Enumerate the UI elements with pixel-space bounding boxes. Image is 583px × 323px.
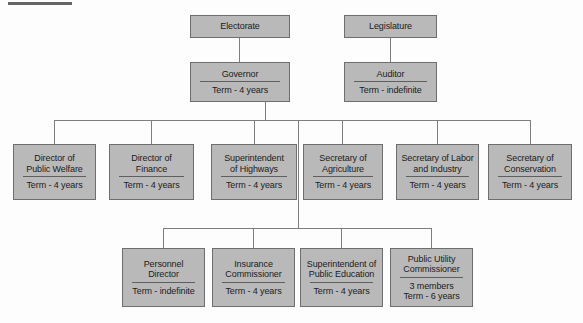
node-finance-divider (119, 176, 184, 177)
org-chart-canvas: Electorate Governor Term - 4 years Legis… (0, 0, 583, 323)
node-public-welfare-term: Term - 4 years (16, 180, 93, 191)
node-governor-term: Term - 4 years (193, 85, 287, 96)
connector-bus-departments (54, 120, 530, 121)
node-public-utility-commissioner-title: Public Utility Commissioner (393, 254, 470, 275)
node-legislature-title: Legislature (347, 21, 434, 32)
node-highways-divider (221, 176, 287, 177)
node-public-education-divider (310, 282, 373, 283)
connector-drop-public-education (341, 228, 342, 248)
node-public-education-term: Term - 4 years (303, 286, 380, 297)
connector-bus-agencies (163, 228, 432, 229)
node-highways-title: Superintendent of Highways (214, 153, 294, 174)
node-agriculture-title: Secretary of Agriculture (306, 153, 380, 174)
connector-drop-labor-industry (437, 120, 438, 144)
node-personnel-director-title: Personnel Director (125, 259, 202, 280)
node-electorate-title: Electorate (193, 21, 287, 32)
node-public-welfare-title: Director of Public Welfare (16, 153, 93, 174)
connector-governor-dropline (265, 102, 266, 120)
node-finance-term: Term - 4 years (112, 180, 191, 191)
node-personnel-director: Personnel Director Term - indefinite (122, 248, 205, 307)
node-conservation-term: Term - 4 years (491, 180, 569, 191)
node-governor: Governor Term - 4 years (190, 62, 290, 102)
node-highways: Superintendent of Highways Term - 4 year… (211, 144, 297, 200)
node-insurance-commissioner-title: Insurance Commissioner (215, 259, 292, 280)
node-public-utility-commissioner-divider (400, 277, 463, 278)
scan-artifact-bar (8, 2, 72, 5)
connector-drop-public-utility (431, 228, 432, 248)
node-labor-industry-term: Term - 4 years (399, 180, 476, 191)
connector-drop-agriculture (342, 120, 343, 144)
node-auditor: Auditor Term - indefinite (344, 62, 437, 102)
node-finance-title: Director of Finance (112, 153, 191, 174)
connector-governor-to-second-bus (298, 120, 299, 228)
node-public-utility-commissioner-term: 3 members Term - 6 years (393, 281, 470, 302)
node-insurance-commissioner-divider (222, 282, 285, 283)
node-finance: Director of Finance Term - 4 years (109, 144, 194, 200)
node-public-utility-commissioner: Public Utility Commissioner 3 members Te… (390, 248, 473, 307)
connector-drop-personnel (163, 228, 164, 248)
node-conservation: Secretary of Conservation Term - 4 years (488, 144, 572, 200)
node-public-welfare-divider (23, 176, 86, 177)
node-legislature: Legislature (344, 15, 437, 38)
connector-drop-public-welfare (54, 120, 55, 144)
node-auditor-term: Term - indefinite (347, 85, 434, 96)
node-electorate: Electorate (190, 15, 290, 38)
node-auditor-title: Auditor (347, 69, 434, 80)
node-agriculture: Secretary of Agriculture Term - 4 years (303, 144, 383, 200)
node-conservation-title: Secretary of Conservation (491, 153, 569, 174)
node-auditor-divider (354, 81, 427, 82)
node-insurance-commissioner: Insurance Commissioner Term - 4 years (212, 248, 295, 307)
node-highways-term: Term - 4 years (214, 180, 294, 191)
node-insurance-commissioner-term: Term - 4 years (215, 286, 292, 297)
node-agriculture-divider (313, 176, 373, 177)
node-conservation-divider (498, 176, 562, 177)
node-labor-industry-divider (406, 176, 469, 177)
connector-legislature-auditor (390, 38, 391, 62)
connector-drop-insurance (253, 228, 254, 248)
connector-drop-highways (254, 120, 255, 144)
node-public-education-title: Superintendent of Public Education (303, 259, 380, 280)
node-agriculture-term: Term - 4 years (306, 180, 380, 191)
node-labor-industry: Secretary of Labor and Industry Term - 4… (396, 144, 479, 200)
node-governor-divider (200, 81, 280, 82)
connector-drop-finance (151, 120, 152, 144)
node-governor-title: Governor (193, 69, 287, 80)
connector-electorate-governor (239, 38, 240, 62)
node-labor-industry-title: Secretary of Labor and Industry (399, 153, 476, 174)
node-public-welfare: Director of Public Welfare Term - 4 year… (13, 144, 96, 200)
node-personnel-director-term: Term - indefinite (125, 286, 202, 297)
node-public-education: Superintendent of Public Education Term … (300, 248, 383, 307)
connector-drop-conservation (530, 120, 531, 144)
node-personnel-director-divider (132, 282, 195, 283)
